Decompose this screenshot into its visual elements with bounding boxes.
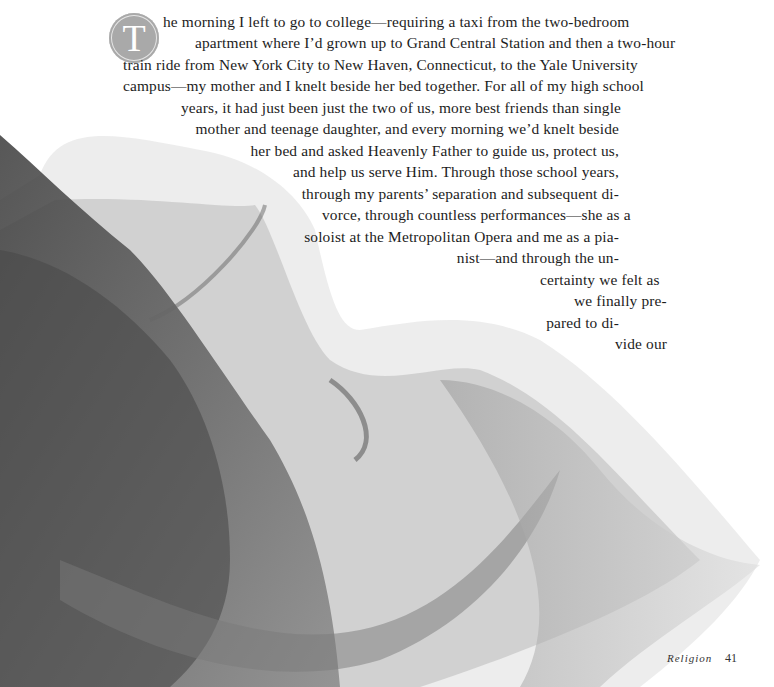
text-line: through my parents’ separation and subse… xyxy=(302,185,619,203)
text-line: vide our xyxy=(615,335,619,353)
page-footer: Religion 41 xyxy=(667,651,737,666)
text-line: certainty we felt as xyxy=(540,271,619,289)
text-line: mother and teenage daughter, and every m… xyxy=(195,120,619,138)
text-line: and help us serve Him. Through those sch… xyxy=(293,163,619,181)
page-number: 41 xyxy=(725,651,737,665)
text-line: her bed and asked Heavenly Father to gui… xyxy=(250,142,619,160)
text-line: vorce, through countless performances—sh… xyxy=(322,206,619,224)
text-line: nist—and through the un- xyxy=(457,249,619,267)
text-line: we finally pre- xyxy=(574,292,619,310)
text-line: soloist at the Metropolitan Opera and me… xyxy=(304,228,619,246)
text-line: years, it had just been just the two of … xyxy=(181,99,619,117)
text-line: campus—my mother and I knelt beside her … xyxy=(123,77,619,95)
text-line: apartment where I’d grown up to Grand Ce… xyxy=(195,34,619,52)
text-line: train ride from New York City to New Hav… xyxy=(123,56,619,74)
section-title: Religion xyxy=(667,652,712,664)
text-line: he morning I left to go to college—requi… xyxy=(163,13,619,31)
text-line: pared to di- xyxy=(546,314,619,332)
